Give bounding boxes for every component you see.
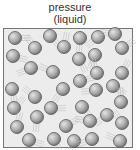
particle <box>48 133 63 150</box>
particle-field <box>0 0 140 149</box>
particle <box>116 38 137 54</box>
particle <box>8 95 27 114</box>
particle <box>107 80 128 97</box>
particle <box>38 64 59 79</box>
particle <box>11 112 24 134</box>
particle <box>94 109 114 127</box>
particle <box>16 62 37 77</box>
particle <box>45 102 67 115</box>
particle <box>52 83 69 103</box>
particle <box>116 59 132 80</box>
particle <box>31 111 44 133</box>
particle <box>7 50 29 63</box>
particle <box>75 115 97 128</box>
particle <box>73 53 89 74</box>
particle <box>105 132 126 147</box>
particle <box>58 32 71 54</box>
particle <box>112 109 129 129</box>
particle <box>74 32 87 54</box>
particle <box>9 32 31 45</box>
particle <box>6 83 19 105</box>
particle <box>24 34 41 54</box>
particle <box>85 31 105 49</box>
particle <box>23 134 45 147</box>
